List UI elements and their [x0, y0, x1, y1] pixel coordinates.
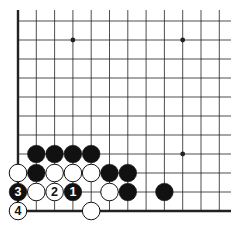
stone-disc — [28, 145, 46, 163]
white-stone — [28, 183, 46, 201]
star-point — [180, 152, 185, 157]
black-stone — [119, 164, 137, 182]
stone-disc — [28, 183, 46, 201]
black-stone — [82, 145, 100, 163]
stone-disc — [46, 145, 64, 163]
black-stone — [156, 183, 174, 201]
white-stone-4: 4 — [9, 202, 27, 220]
stone-disc — [119, 164, 137, 182]
stone-disc — [28, 164, 46, 182]
stone-disc — [82, 202, 100, 220]
star-point — [71, 38, 76, 43]
black-stone-3: 3 — [9, 183, 27, 201]
stone-disc — [101, 183, 119, 201]
white-stone — [82, 202, 100, 220]
white-stone-2: 2 — [46, 183, 64, 201]
go-board: 3214 — [0, 0, 237, 232]
star-point — [180, 38, 185, 43]
black-stone — [64, 145, 82, 163]
stone-disc — [64, 164, 82, 182]
black-stone-1: 1 — [64, 183, 82, 201]
black-stone — [28, 145, 46, 163]
stone-disc — [64, 145, 82, 163]
white-stone — [64, 164, 82, 182]
white-stone — [9, 164, 27, 182]
black-stone — [28, 164, 46, 182]
white-stone — [46, 164, 64, 182]
stone-disc — [119, 183, 137, 201]
black-stone — [46, 145, 64, 163]
stone-disc — [101, 164, 119, 182]
move-number-label: 2 — [51, 185, 58, 199]
white-stone — [82, 164, 100, 182]
black-stone — [101, 164, 119, 182]
stone-disc — [156, 183, 174, 201]
stone-disc — [9, 164, 27, 182]
black-stone — [119, 183, 137, 201]
stone-disc — [46, 164, 64, 182]
stone-disc — [82, 164, 100, 182]
stone-disc — [82, 145, 100, 163]
move-number-label: 1 — [69, 185, 76, 199]
white-stone — [101, 183, 119, 201]
move-number-label: 4 — [15, 204, 22, 218]
move-number-label: 3 — [15, 185, 22, 199]
